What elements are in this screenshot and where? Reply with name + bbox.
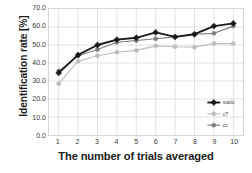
- x-axis-title: The number of trials averaged: [28, 150, 244, 163]
- plot-area: staticcTcc: [48, 8, 244, 136]
- y-tick-label: 30.0: [21, 78, 46, 85]
- x-axis-tick-labels: 12345678910: [48, 138, 244, 148]
- series-cT: [57, 42, 236, 86]
- chart-container: Identification rate [%] 0.010.020.030.04…: [0, 0, 252, 173]
- y-tick-label: 50.0: [21, 41, 46, 48]
- y-axis-tick-labels: 0.010.020.030.040.050.060.070.0: [21, 8, 46, 136]
- y-tick-label: 20.0: [21, 96, 46, 103]
- y-tick-label: 40.0: [21, 59, 46, 66]
- y-tick-label: 70.0: [21, 5, 46, 12]
- data-series-layer: [49, 9, 243, 135]
- y-tick-label: 60.0: [21, 23, 46, 30]
- x-tick-label: 10: [223, 138, 245, 146]
- y-tick-label: 0.0: [21, 133, 46, 140]
- y-tick-label: 10.0: [21, 114, 46, 121]
